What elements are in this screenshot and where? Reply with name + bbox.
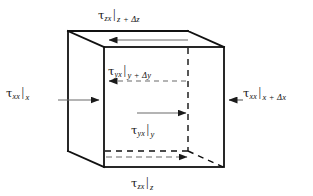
tau-subscript: xx — [249, 92, 257, 101]
edge-top-right-diagonal — [188, 31, 224, 47]
evaluated-at: z + Δz — [117, 14, 140, 24]
hidden-edge-bottom-right-diagonal — [188, 151, 223, 167]
edge-bottom-left-diagonal — [68, 151, 104, 167]
cube-visible-edges — [68, 31, 224, 167]
tau-subscript: yx — [137, 129, 145, 138]
label-tau-zx-top: τzx|z + Δz — [98, 9, 140, 23]
evaluated-at: z — [150, 182, 154, 192]
stress-arrows — [58, 40, 243, 157]
edge-top-left-diagonal — [68, 31, 104, 47]
label-tau-zx-bottom: τzx|z — [131, 177, 154, 191]
label-tau-yx-upper: τyx|y + Δy — [108, 65, 151, 79]
label-tau-xx-left: τxx|x — [6, 87, 29, 101]
tau-subscript: xx — [12, 92, 20, 101]
evaluated-at: x + Δx — [263, 92, 287, 102]
tau-subscript: zx — [137, 182, 144, 191]
tau-subscript: zx — [104, 14, 111, 23]
evaluated-at: x — [26, 92, 30, 102]
evaluated-at: y + Δy — [128, 70, 152, 80]
tau-subscript: yx — [114, 70, 122, 79]
evaluated-at: y — [151, 129, 155, 139]
label-tau-xx-right: τxx|x + Δx — [243, 87, 286, 101]
stress-cube-figure: τzx|z + Δz τzx|z τxx|x τxx|x + Δx τyx|y … — [0, 0, 313, 196]
label-tau-yx-lower: τyx|y — [131, 124, 154, 138]
